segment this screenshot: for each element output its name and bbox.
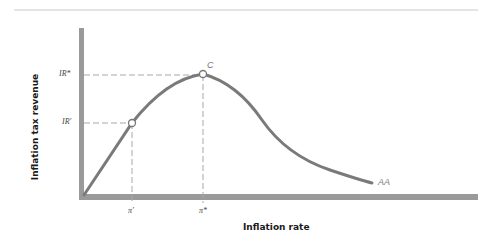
y-tick-ir-star: IR* (59, 69, 71, 78)
y-axis (79, 28, 84, 200)
point-ir-prime (129, 120, 136, 127)
x-tick-pi-star: π* (199, 206, 207, 215)
y-tick-ir-prime: IR′ (62, 117, 71, 126)
chart-canvas (0, 0, 497, 245)
guide-lines (84, 75, 203, 203)
curve-aa-label: AA (378, 177, 390, 187)
y-axis-label: Inflation tax revenue (30, 74, 40, 180)
point-c (200, 71, 207, 78)
x-tick-pi-prime: π′ (128, 206, 134, 215)
point-c-label: C (207, 60, 214, 70)
x-axis (79, 194, 478, 200)
curve-aa (84, 74, 372, 195)
x-axis-label: Inflation rate (243, 222, 310, 232)
